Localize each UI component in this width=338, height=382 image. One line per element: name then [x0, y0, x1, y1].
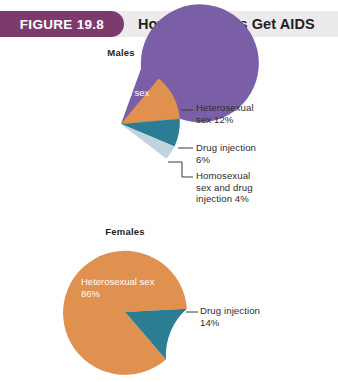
slice-label-male-homosexual-line2: 79% — [79, 99, 99, 110]
leader-line-male-both — [168, 162, 193, 177]
callout-male-homosexual-and-drug: Homosexual sex and drug injection 4% — [196, 170, 328, 205]
females-pie-chart: Heterosexual sex 86% — [63, 251, 198, 375]
slice-label-male-homosexual-line1: Homosexual sex — [79, 87, 149, 98]
slice-label-female-heterosexual-line2: 86% — [81, 288, 101, 299]
figure-page: FIGURE 19.8 How Americans Get AIDS Males… — [0, 0, 338, 382]
callout-male-heterosexual: Heterosexual sex 12% — [196, 102, 328, 125]
slice-label-female-heterosexual-line1: Heterosexual sex — [81, 276, 155, 287]
callout-male-drug-injection: Drug injection 6% — [196, 142, 328, 165]
callout-female-drug-injection: Drug injection 14% — [200, 305, 330, 328]
